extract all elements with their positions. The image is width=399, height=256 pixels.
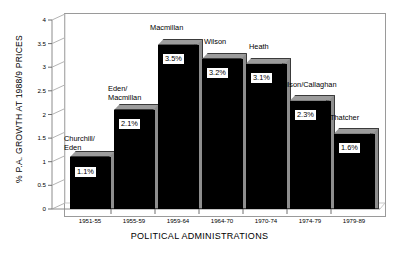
y-tick-label: 0 <box>24 206 46 212</box>
x-tick-label: 1979-89 <box>334 218 374 224</box>
bar-value-label: 1.1% <box>74 166 97 178</box>
y-tick-label: 4 <box>24 17 46 23</box>
bar-front-face <box>158 45 199 209</box>
bar-front-face <box>70 157 111 209</box>
bar-series-label: Eden/ Macmillan <box>108 85 141 102</box>
y-tick-label: 3.5 <box>24 41 46 47</box>
bar-series-label: Macmillan <box>150 24 183 33</box>
y-tick-label: 0.5 <box>24 182 46 188</box>
bar-value-label: 2.3% <box>294 109 317 121</box>
x-tick-label: 1964-70 <box>202 218 242 224</box>
y-axis-title: % P.A. GROWTH AT 1988/9 PRICES <box>14 14 24 204</box>
y-tick-label: 1.5 <box>24 135 46 141</box>
y-tick-label: 3 <box>24 64 46 70</box>
bar-value-label: 3.2% <box>206 67 229 79</box>
bar-series-label: Wilson <box>204 38 226 47</box>
x-axis-title: POLITICAL ADMINISTRATIONS <box>0 231 399 241</box>
bar-series-label: Heath <box>249 43 269 52</box>
x-tick-label: 1959-64 <box>158 218 198 224</box>
bar-value-label: 3.5% <box>162 53 185 65</box>
bar-front-face <box>202 59 243 209</box>
x-tick-label: 1970-74 <box>246 218 286 224</box>
y-tick-label: 2 <box>24 112 46 118</box>
x-tick-label: 1974-79 <box>290 218 330 224</box>
bar-series-label: Churchill/ Eden <box>64 135 95 152</box>
bar-series-label: Wilson/Callaghan <box>279 81 337 90</box>
bar-chart: % P.A. GROWTH AT 1988/9 PRICES 0 0.5 1 1… <box>0 0 399 256</box>
x-tick-label: 1955-59 <box>114 218 154 224</box>
x-tick-label: 1951-55 <box>70 218 110 224</box>
y-tick-label: 2.5 <box>24 88 46 94</box>
y-tick-label: 1 <box>24 159 46 165</box>
bar-value-label: 2.1% <box>118 118 141 130</box>
bar-value-label: 1.6% <box>338 142 361 154</box>
bar-value-label: 3.1% <box>250 72 273 84</box>
bar-series-label: Thatcher <box>330 114 359 123</box>
